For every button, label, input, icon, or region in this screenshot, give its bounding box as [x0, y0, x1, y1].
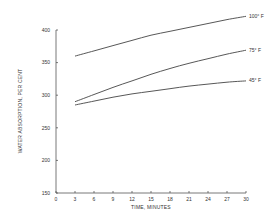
- x-tick-label: 12: [129, 196, 135, 202]
- series-label: 100° F: [249, 13, 264, 19]
- x-tick-label: 27: [224, 196, 230, 202]
- y-axis-title: WATER ABSORPTION, PER CENT: [17, 69, 23, 154]
- series-line: [75, 81, 246, 105]
- x-tick-label: 15: [148, 196, 154, 202]
- y-tick-label: 250: [42, 125, 51, 131]
- x-tick-label: 18: [167, 196, 173, 202]
- y-tick-label: 400: [42, 27, 51, 33]
- series-line: [75, 50, 246, 101]
- chart: 150200250300350400 036912151821242730 WA…: [0, 0, 273, 223]
- x-tick-label: 0: [55, 196, 58, 202]
- x-tick-label: 6: [93, 196, 96, 202]
- y-tick-label: 350: [42, 59, 51, 65]
- x-axis-title: TIME, MINUTES: [131, 204, 171, 210]
- series-label: 75° F: [249, 47, 261, 53]
- axes: [56, 30, 246, 193]
- x-tick-label: 21: [186, 196, 192, 202]
- series-label: 45° F: [249, 77, 261, 83]
- y-tick-label: 300: [42, 92, 51, 98]
- x-tick-label: 30: [243, 196, 249, 202]
- y-tick-label: 200: [42, 157, 51, 163]
- x-tick-label: 3: [74, 196, 77, 202]
- y-tick-label: 150: [42, 190, 51, 196]
- series-line: [75, 16, 246, 56]
- x-tick-label: 9: [112, 196, 115, 202]
- y-ticks: 150200250300350400: [42, 27, 58, 196]
- curves: 100° F75° F45° F: [75, 13, 264, 105]
- x-tick-label: 24: [205, 196, 211, 202]
